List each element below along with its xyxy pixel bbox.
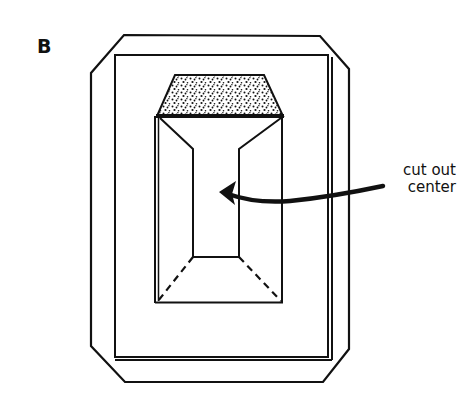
cut-out-center [160,118,281,257]
arrow-icon [219,181,383,205]
diagram-figure [0,0,469,412]
callout-line-2: center [380,179,456,196]
callout-line-1: cut out [380,162,456,179]
panel-label: B [37,37,51,56]
callout-label: cut out center [380,162,456,196]
stippled-flap [157,75,283,116]
envelope-box [155,116,284,303]
dashed-fold-lines [158,257,281,301]
